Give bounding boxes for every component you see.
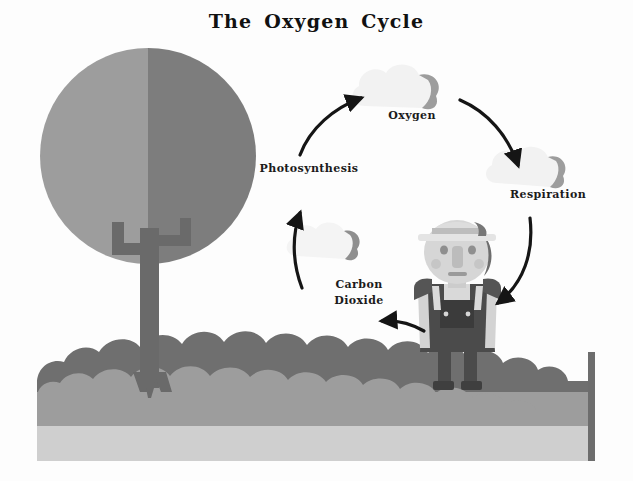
label-photosynthesis: Photosynthesis [244,161,374,177]
arrow-tree-to-oxygen [300,98,361,155]
arrow-person-to-carbon-dioxide [382,321,424,331]
arrow-respiration-to-person [498,218,531,303]
oxygen-cloud [353,65,439,110]
label-respiration: Respiration [498,187,598,203]
oxygen-cycle-diagram: The Oxygen Cycle [0,0,633,481]
label-oxygen: Oxygen [372,108,452,124]
label-carbon-dioxide: Carbon Dioxide [316,277,402,309]
diagram-scene [0,0,633,481]
respiration-cloud [486,147,565,188]
carbon-dioxide-cloud [287,222,360,260]
